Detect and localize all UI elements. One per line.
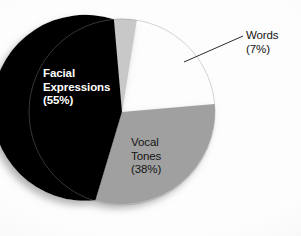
- slice-label-words-line1: Words: [246, 29, 279, 43]
- slice-value-words: (7%): [246, 43, 279, 57]
- slice-value-vocal-tones: (38%): [131, 163, 161, 177]
- words-leader-line: [184, 36, 243, 62]
- slice-label-facial-expressions-line1: Facial: [43, 67, 110, 81]
- slice-label-facial-expressions: Facial Expressions (55%): [43, 67, 110, 108]
- pie-chart-figure: Facial Expressions (55%) Vocal Tones (38…: [0, 0, 301, 236]
- slice-label-vocal-tones: Vocal Tones (38%): [131, 136, 161, 177]
- slice-label-vocal-tones-line1: Vocal: [131, 136, 161, 150]
- slice-label-facial-expressions-line2: Expressions: [43, 81, 110, 95]
- pie-group: [0, 6, 223, 209]
- slice-label-vocal-tones-line2: Tones: [131, 150, 161, 164]
- slice-value-facial-expressions: (55%): [43, 94, 110, 108]
- slice-label-words: Words (7%): [246, 29, 279, 56]
